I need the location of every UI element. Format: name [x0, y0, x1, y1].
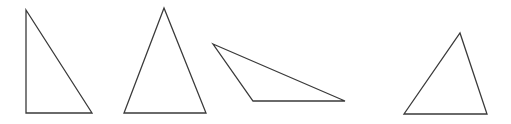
triangles-figure — [0, 0, 511, 124]
triangle-2 — [124, 8, 206, 113]
triangle-3 — [213, 44, 345, 101]
figure-svg-canvas — [0, 0, 511, 124]
triangle-4 — [404, 33, 487, 114]
triangle-1 — [26, 10, 92, 113]
